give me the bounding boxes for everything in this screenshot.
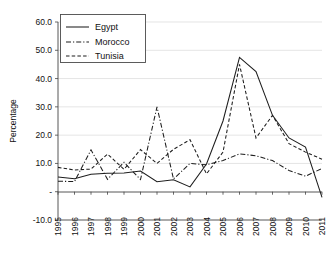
y-tick-label: 10.0 (35, 158, 52, 168)
y-tick-label: 20.0 (35, 130, 52, 140)
legend-label-tunisia: Tunisia (95, 51, 124, 61)
legend-label-egypt: Egypt (95, 22, 119, 32)
y-tick-label: - (49, 187, 52, 197)
line-chart: 60.050.040.030.020.010.0--10.0 199519961… (0, 0, 334, 270)
y-tick-label: -10.0 (33, 215, 53, 225)
y-tick-label: 30.0 (35, 102, 52, 112)
series-line-morocco (58, 107, 322, 182)
series-line-tunisia (58, 64, 322, 173)
y-axis-tick-labels: 60.050.040.030.020.010.0--10.0 (33, 17, 53, 225)
x-tick-label: 2011 (317, 217, 327, 236)
y-tick-label: 50.0 (35, 45, 52, 55)
y-tick-label: 60.0 (35, 17, 52, 27)
y-tick-label: 40.0 (35, 74, 52, 84)
chart-container: 60.050.040.030.020.010.0--10.0 199519961… (0, 0, 334, 270)
y-axis-title: Percentage (8, 99, 18, 143)
legend-label-morocco: Morocco (95, 37, 130, 47)
chart-legend: Egypt Morocco Tunisia (61, 15, 146, 63)
